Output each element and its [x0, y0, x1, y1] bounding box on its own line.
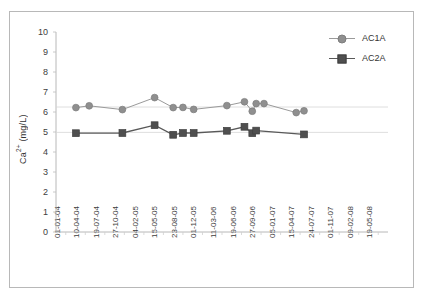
- circle-marker-icon: [338, 34, 347, 43]
- data-point-ac2a-1: [119, 130, 126, 137]
- data-point-ac1a-8: [241, 98, 248, 105]
- data-point-ac2a-0: [73, 130, 80, 137]
- data-point-ac2a-2: [151, 122, 158, 129]
- data-point-ac1a-12: [293, 109, 300, 116]
- data-point-ac2a-4: [180, 130, 187, 137]
- data-point-ac2a-3: [170, 131, 177, 138]
- data-point-ac1a-11: [261, 100, 268, 107]
- square-marker-icon: [338, 54, 347, 63]
- series-line-ac1a: [76, 98, 304, 113]
- data-point-ac1a-2: [119, 106, 126, 113]
- data-point-ac1a-0: [73, 104, 80, 111]
- data-point-ac1a-1: [86, 102, 93, 109]
- data-point-ac1a-13: [301, 107, 308, 114]
- legend-item-ac2a[interactable]: AC2A: [329, 48, 409, 68]
- data-point-ac2a-6: [223, 127, 230, 134]
- chart-legend: AC1A AC2A: [329, 28, 409, 68]
- data-point-ac2a-7: [241, 123, 248, 130]
- legend-label-ac2a: AC2A: [362, 53, 386, 63]
- data-point-ac2a-10: [301, 131, 308, 138]
- data-point-ac1a-10: [253, 100, 260, 107]
- legend-item-ac1a[interactable]: AC1A: [329, 28, 409, 48]
- data-point-ac1a-5: [180, 104, 187, 111]
- data-point-ac1a-6: [190, 106, 197, 113]
- data-point-ac1a-7: [223, 102, 230, 109]
- data-point-ac2a-9: [253, 127, 260, 134]
- legend-line-ac2a: [329, 58, 355, 59]
- data-point-ac2a-5: [190, 130, 197, 137]
- data-point-ac1a-3: [151, 94, 158, 101]
- series-ac1a: [73, 94, 308, 116]
- series-ac2a: [73, 122, 308, 138]
- legend-label-ac1a: AC1A: [362, 33, 386, 43]
- data-point-ac1a-9: [249, 108, 256, 115]
- data-point-ac1a-4: [170, 104, 177, 111]
- legend-line-ac1a: [329, 38, 355, 39]
